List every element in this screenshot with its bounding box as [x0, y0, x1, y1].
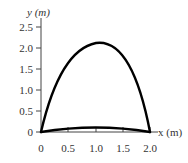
x-tick-label: 0 [38, 142, 44, 154]
x-tick-label: 2.0 [143, 142, 157, 154]
y-tick-label: 0 [28, 126, 34, 138]
y-tick-label: 1.5 [19, 63, 33, 75]
y-axis-label: y (m) [26, 6, 50, 19]
x-axis-label: x (m) [158, 126, 182, 139]
trajectory-chart: 2.5 2.0 1.5 1.0 0.5 0 0 0.5 1.0 1.5 2.0 … [0, 0, 188, 163]
y-ticks [36, 27, 41, 132]
y-tick-label: 0.5 [19, 105, 33, 117]
y-tick-label: 2.0 [19, 42, 33, 54]
x-tick-label: 1.0 [89, 142, 103, 154]
x-tick-label: 1.5 [116, 142, 130, 154]
x-tick-label: 0.5 [61, 142, 75, 154]
high-trajectory-curve [41, 43, 150, 132]
y-tick-label: 1.0 [19, 84, 33, 96]
y-tick-label: 2.5 [19, 21, 33, 33]
